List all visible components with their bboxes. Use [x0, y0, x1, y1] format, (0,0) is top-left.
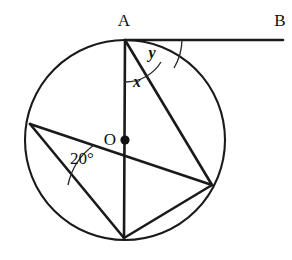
geometry-canvas: A B O x y 20° [0, 0, 292, 260]
label-angle-twenty: 20° [70, 149, 94, 168]
segment-ad-chord [125, 40, 212, 185]
label-point-a: A [118, 11, 131, 30]
label-angle-y: y [146, 44, 156, 62]
label-angle-x: x [132, 73, 141, 90]
label-point-b: B [274, 11, 285, 30]
segment-cd-chord [30, 124, 212, 185]
center-point-dot [120, 135, 129, 144]
geometry-figure: A B O x y 20° [0, 0, 292, 260]
label-center-o: O [104, 130, 116, 149]
